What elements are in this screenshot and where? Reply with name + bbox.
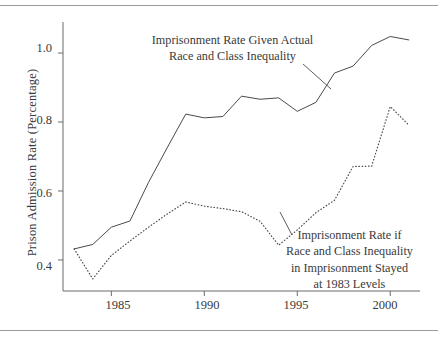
y-axis-ticks [58,53,63,260]
counterfactual-annotation-leader [280,212,292,235]
plot-area [0,0,438,339]
series-paths [74,36,409,278]
series-line-actual [74,36,409,248]
x-axis-ticks [111,291,390,296]
actual-annotation-leader [303,64,331,89]
axis-lines [63,22,420,291]
series-line-counterfactual [74,106,409,278]
chart-figure: Prison Admission Rate (Percentage) 1.0 0… [0,0,438,339]
